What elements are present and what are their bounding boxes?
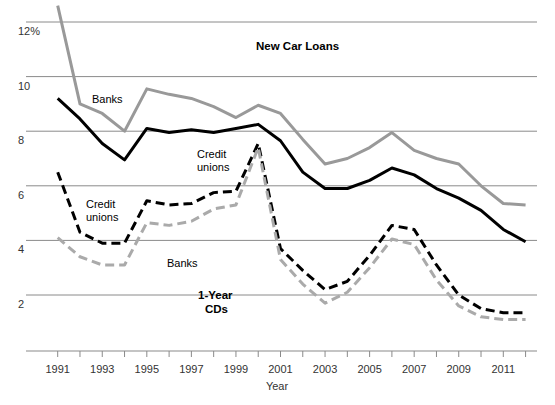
x-axis-title: Year	[266, 380, 289, 392]
y-axis-tick-labels: 12%108642	[18, 25, 40, 310]
x-axis-tick-label: 1999	[224, 363, 248, 375]
x-axis-tick-label: 2001	[268, 363, 292, 375]
y-axis-tick-label: 10	[18, 80, 30, 92]
series-line-1	[58, 98, 526, 241]
x-axis-tick-label: 2005	[357, 363, 381, 375]
x-axis-tick-label: 1995	[135, 363, 159, 375]
x-axis-tick-label: 1991	[45, 363, 69, 375]
annotation-loans-credit-unions-2: unions	[197, 161, 230, 173]
y-axis-tick-label: 2	[18, 298, 24, 310]
y-axis-tick-label: 6	[18, 189, 24, 201]
x-axis-tick-label: 2009	[446, 363, 470, 375]
x-axis-tick-label: 1997	[179, 363, 203, 375]
x-axis-tick-labels: 1991199319951997199920012003200520072009…	[45, 363, 515, 375]
x-axis-tick-label: 2007	[402, 363, 426, 375]
x-axis-tick-label: 2011	[491, 363, 515, 375]
chart-annotations-group: New Car LoansBanksCreditunionsCreditunio…	[86, 40, 339, 315]
annotation-one-year-cds: 1-Year	[198, 289, 233, 301]
annotation-loans-banks: Banks	[92, 93, 123, 105]
y-axis-tick-label: 8	[18, 134, 24, 146]
gridlines-group	[26, 22, 537, 295]
y-axis-tick-label: 12%	[18, 25, 40, 37]
x-axis-tick-label: 2003	[313, 363, 337, 375]
annotation-new-car-loans: New Car Loans	[256, 40, 339, 52]
annotation-loans-credit-unions: Credit	[197, 148, 226, 160]
series-line-3	[58, 148, 526, 320]
annotation-cds-credit-unions-2: unions	[86, 211, 119, 223]
x-axis-tick-label: 1993	[90, 363, 114, 375]
chart-container: 12%108642 199119931995199719992001200320…	[0, 0, 555, 405]
series-line-0	[58, 6, 526, 205]
data-series-group	[58, 6, 526, 320]
annotation-one-year-cds-2: CDs	[205, 303, 228, 315]
y-axis-tick-label: 4	[18, 243, 24, 255]
interest-rates-line-chart: 12%108642 199119931995199719992001200320…	[0, 0, 555, 405]
series-line-2	[58, 143, 526, 312]
annotation-cds-banks: Banks	[167, 257, 198, 269]
annotation-cds-credit-unions: Credit	[86, 198, 115, 210]
x-axis-group	[26, 351, 537, 357]
